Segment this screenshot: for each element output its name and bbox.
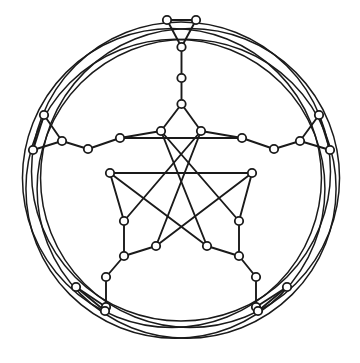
graph-vertex-ring-a-upper-right — [238, 134, 246, 142]
graph-vertex-hub-bl-upper — [102, 273, 110, 281]
graph-vertex-br-tri-outer — [283, 283, 291, 291]
graph-vertex-ring-d-lower-right — [235, 252, 243, 260]
graph-vertex-ring-d-lower-left — [120, 252, 128, 260]
graph-vertex-left-tri-bottom — [29, 146, 37, 154]
graph-vertex-ring-a-upper-left — [116, 134, 124, 142]
graph-vertex-star-inner-tr — [197, 127, 205, 135]
graph-vertex-hub-right-inner — [296, 137, 304, 145]
graph-vertex-br-tri-lower — [254, 307, 262, 315]
graph-vertex-bl-tri-outer — [72, 283, 80, 291]
graph-vertex-right-tri-bottom — [326, 146, 334, 154]
graph-vertex-left-tri-top — [40, 111, 48, 119]
figure-root — [0, 0, 360, 363]
graph-vertex-ring-b-left — [106, 169, 114, 177]
graph-vertex-hub-right-outer — [270, 145, 278, 153]
graph-vertex-top-tri-apex — [177, 43, 185, 51]
graph-vertex-right-tri-top — [315, 111, 323, 119]
graph-vertex-top-tri-right — [192, 16, 200, 24]
graph-vertex-hub-left-inner — [58, 137, 66, 145]
graph-diagram — [0, 0, 360, 363]
graph-vertex-ring-c-lower-right — [235, 217, 243, 225]
graph-vertex-hub-left-outer — [84, 145, 92, 153]
figure-background — [0, 0, 360, 363]
graph-vertex-ring-c-lower-left — [120, 217, 128, 225]
graph-vertex-star-inner-bl — [152, 242, 160, 250]
graph-vertex-star-inner-br — [203, 242, 211, 250]
graph-vertex-star-tip-top — [177, 100, 185, 108]
graph-vertex-top-tri-left — [163, 16, 171, 24]
graph-vertex-top-spoke — [177, 74, 185, 82]
graph-vertex-hub-br-upper — [252, 273, 260, 281]
graph-vertex-ring-b-right — [248, 169, 256, 177]
graph-vertex-star-inner-tl — [157, 127, 165, 135]
graph-vertex-bl-tri-lower — [101, 307, 109, 315]
